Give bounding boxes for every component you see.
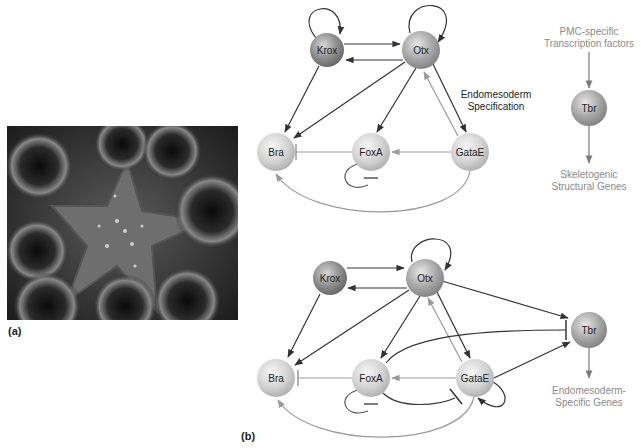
endomesoderm-genes-label-line1: Endomesoderm- bbox=[552, 385, 626, 396]
node-bra: Bra bbox=[257, 133, 295, 171]
node-krox: Krox bbox=[310, 33, 344, 67]
pmc-label-line2: Transcription factors bbox=[544, 38, 634, 49]
krox-to-bra-edge-bottom bbox=[288, 294, 320, 357]
krox-to-bra-edge bbox=[285, 66, 319, 132]
top-network: Krox Otx Bra FoxA GataE Endomesoderm Spe… bbox=[257, 6, 634, 212]
svg-text:FoxA: FoxA bbox=[359, 147, 383, 158]
node-gatae: GataE bbox=[451, 133, 489, 171]
node-gatae-bottom: GataE bbox=[456, 359, 494, 397]
svg-text:Bra: Bra bbox=[268, 373, 284, 384]
svg-text:Otx: Otx bbox=[417, 273, 433, 284]
svg-text:GataE: GataE bbox=[461, 373, 490, 384]
skeletogenic-label-line1: Skeletogenic bbox=[560, 169, 617, 180]
node-krox-bottom: Krox bbox=[313, 261, 347, 295]
node-otx: Otx bbox=[402, 31, 440, 69]
endomesoderm-annotation-line1: Endomesoderm bbox=[461, 89, 532, 100]
gatae-to-tbr-edge bbox=[494, 342, 570, 378]
otx-to-bra-edge bbox=[294, 62, 405, 138]
pmc-label-line1: PMC-specific bbox=[560, 26, 619, 37]
svg-text:FoxA: FoxA bbox=[359, 373, 383, 384]
node-bra-bottom: Bra bbox=[257, 359, 295, 397]
foxa-inhibits-gatae-edge bbox=[383, 393, 455, 405]
svg-text:GataE: GataE bbox=[456, 147, 485, 158]
node-tbr-top: Tbr bbox=[571, 90, 607, 126]
endomesoderm-genes-label-line2: Specific Genes bbox=[555, 397, 622, 408]
otx-to-foxa-edge-bottom bbox=[381, 296, 420, 358]
gatae-to-bra-edge bbox=[276, 171, 470, 212]
bottom-network: Krox Otx Tbr Bra FoxA GataE Endomesoderm… bbox=[257, 239, 626, 437]
gene-network-diagrams: Krox Otx Bra FoxA GataE Endomesoderm Spe… bbox=[0, 0, 641, 448]
node-foxa: FoxA bbox=[352, 133, 390, 171]
gatae-to-bra-edge-bottom bbox=[278, 397, 474, 437]
otx-to-tbr-edge bbox=[442, 281, 568, 318]
otx-to-bra-edge-bottom bbox=[295, 290, 409, 365]
svg-text:Tbr: Tbr bbox=[582, 103, 598, 114]
svg-text:Krox: Krox bbox=[317, 45, 338, 56]
svg-text:Tbr: Tbr bbox=[582, 325, 598, 336]
foxa-inhibits-tbr-edge bbox=[386, 330, 565, 363]
svg-text:Krox: Krox bbox=[320, 273, 341, 284]
skeletogenic-label-line2: Structural Genes bbox=[551, 181, 626, 192]
svg-text:Otx: Otx bbox=[413, 45, 429, 56]
node-foxa-bottom: FoxA bbox=[352, 359, 390, 397]
svg-text:Bra: Bra bbox=[268, 147, 284, 158]
node-tbr-bottom: Tbr bbox=[571, 312, 607, 348]
endomesoderm-annotation-line2: Specification bbox=[468, 101, 525, 112]
node-otx-bottom: Otx bbox=[406, 259, 444, 297]
